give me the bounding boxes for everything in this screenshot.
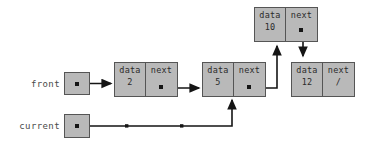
node-12-next-cell: next / <box>323 63 354 96</box>
node-12-data-value: 12 <box>302 76 313 88</box>
pointer-dot-front <box>75 82 79 86</box>
pointer-label-current: current <box>0 121 60 131</box>
pointer-label-front: front <box>8 79 60 89</box>
pointer-box-current[interactable] <box>64 114 90 138</box>
node-5-data-cell: data 5 <box>203 63 234 96</box>
node-10-next-cell: next <box>286 8 317 41</box>
node-10-next-pointer-dot <box>299 28 303 32</box>
arrow-current-to-node5 <box>77 100 232 126</box>
node-12-data-label: data <box>296 65 317 76</box>
node-2-data-cell: data 2 <box>115 63 146 96</box>
node-10-data-cell: data 10 <box>255 8 286 41</box>
list-node-5[interactable]: data 5 next <box>202 62 266 97</box>
list-node-12[interactable]: data 12 next / <box>291 62 355 97</box>
node-2-next-cell: next <box>146 63 177 96</box>
pointer-dot-current <box>75 124 79 128</box>
node-12-next-label: next <box>328 65 349 76</box>
node-10-data-value: 10 <box>265 21 276 33</box>
linked-list-diagram: front current data 2 next data 5 next da… <box>0 0 371 145</box>
node-2-next-pointer-dot <box>159 85 163 89</box>
node-10-data-label: data <box>259 10 280 21</box>
node-5-data-label: data <box>207 65 228 76</box>
connector-tick <box>125 124 128 127</box>
node-5-next-pointer-dot <box>247 85 251 89</box>
node-2-next-label: next <box>151 65 172 76</box>
node-5-next-label: next <box>239 65 260 76</box>
pointer-box-front[interactable] <box>64 72 90 95</box>
list-node-10[interactable]: data 10 next <box>254 7 318 42</box>
list-node-2[interactable]: data 2 next <box>114 62 178 97</box>
node-12-next-null-symbol: / <box>336 76 341 88</box>
node-5-next-cell: next <box>234 63 265 96</box>
node-5-data-value: 5 <box>215 76 220 88</box>
connector-tick <box>180 124 183 127</box>
node-12-data-cell: data 12 <box>292 63 323 96</box>
node-2-data-value: 2 <box>127 76 132 88</box>
node-10-next-label: next <box>291 10 312 21</box>
node-2-data-label: data <box>119 65 140 76</box>
